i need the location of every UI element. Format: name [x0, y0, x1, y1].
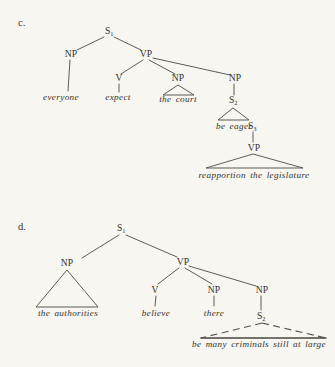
- edge-vp-np-object: [185, 268, 212, 284]
- tree-d: d. S1 NP VP the authorities V NP NP beli…: [18, 221, 326, 349]
- triangle-s2-right-dashed-side: [262, 323, 326, 338]
- node-np-complement: NP: [256, 284, 268, 295]
- edge-s1-vp: [126, 235, 177, 257]
- item-label-d: d.: [18, 221, 26, 232]
- triangle-s2-left-dashed-side: [201, 323, 262, 338]
- node-np-subject: NP: [65, 48, 77, 59]
- word-there: there: [204, 308, 224, 318]
- node-s2: S2: [257, 310, 266, 322]
- phrase-the-authorities: the authorities: [38, 308, 98, 318]
- node-vp-lower: VP: [248, 142, 260, 153]
- edge-vp-v: [121, 60, 143, 74]
- node-np-object: NP: [208, 284, 220, 295]
- syntax-tree-diagrams: c. S1 NP VP V NP NP everyone expect: [0, 0, 335, 367]
- edge-s1-vp: [114, 37, 141, 50]
- triangle-the-authorities: [36, 270, 98, 307]
- edge-s1-np: [77, 37, 104, 50]
- phrase-be-eager: be eager: [216, 121, 252, 131]
- triangle-vp-lower: [206, 154, 303, 168]
- item-label-c: c.: [18, 17, 25, 28]
- node-vp: VP: [140, 48, 152, 59]
- tree-c: c. S1 NP VP V NP NP everyone expect: [18, 17, 309, 180]
- edge-np-everyone: [68, 60, 70, 91]
- edge-vp-np-complement: [153, 58, 230, 75]
- phrase-the-court: the court: [159, 94, 197, 104]
- word-everyone: everyone: [43, 92, 79, 102]
- edge-v-believe: [155, 296, 156, 306]
- node-np-object: NP: [172, 72, 184, 83]
- scanned-page: c. S1 NP VP V NP NP everyone expect: [0, 0, 335, 367]
- node-s1: S1: [117, 222, 126, 234]
- edge-s1-np: [82, 235, 119, 258]
- phrase-reapportion: reapportion the legislature: [199, 170, 310, 180]
- word-believe: believe: [142, 308, 170, 318]
- node-s1: S1: [105, 25, 114, 37]
- node-np-complement: NP: [229, 72, 241, 83]
- node-np-subject: NP: [61, 257, 73, 268]
- edge-vp-v: [158, 268, 179, 284]
- node-s2: S2: [229, 94, 238, 106]
- phrase-be-many-criminals: be many criminals still at large: [192, 339, 326, 349]
- word-expect: expect: [105, 92, 131, 102]
- node-v: V: [116, 72, 123, 83]
- triangle-s2: [218, 108, 249, 120]
- node-vp: VP: [177, 256, 189, 267]
- node-v: V: [152, 284, 159, 295]
- node-s3: S3: [248, 120, 257, 132]
